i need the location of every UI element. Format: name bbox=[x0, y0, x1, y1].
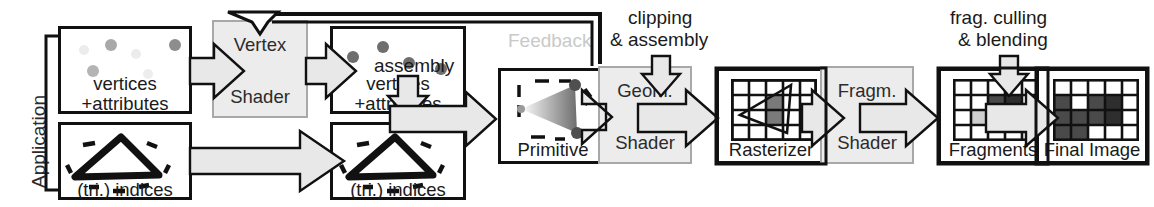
vertex-shader-line1: Vertex bbox=[214, 34, 306, 56]
rasterizer-grid bbox=[731, 79, 817, 141]
fragment-shader-line1: Fragm. bbox=[822, 80, 912, 102]
vertex-dot bbox=[105, 39, 117, 51]
vertex-shader-line2: Shader bbox=[214, 86, 306, 108]
vertices-attributes-in-box: vertices +attributes bbox=[58, 26, 192, 114]
application-label: Application bbox=[28, 95, 50, 188]
tri-indices-label: (tri.) indices bbox=[333, 179, 463, 201]
vertex-dot bbox=[377, 41, 389, 53]
vertex-dot bbox=[131, 49, 141, 59]
rasterizer-box: Rasterizer bbox=[716, 68, 826, 164]
tri-indices-in-box: (tri.) indices bbox=[58, 122, 192, 200]
pipeline-diagram: Application vertices +attributes Vertex … bbox=[0, 0, 1154, 207]
geometry-shader-line1: Geom. bbox=[600, 80, 690, 102]
attributes-label: +attributes bbox=[333, 93, 463, 115]
geometry-shader-box[interactable]: Geom. Shader bbox=[598, 66, 692, 164]
attributes-label: +attributes bbox=[61, 93, 189, 115]
culling-label-line2: & blending bbox=[958, 30, 1048, 50]
fragment-shader-line2: Shader bbox=[822, 132, 912, 154]
arrow-tri-indices bbox=[190, 131, 344, 191]
primitive-box: Primitive bbox=[498, 68, 608, 164]
vertex-dot bbox=[79, 45, 89, 55]
tri-indices-label: (tri.) indices bbox=[61, 179, 189, 201]
final-image-grid bbox=[1053, 79, 1139, 141]
vertex-dot bbox=[169, 39, 181, 51]
culling-label-line1: frag. culling bbox=[950, 8, 1047, 28]
final-image-label: Final Image bbox=[1039, 139, 1145, 161]
clipping-label-line1: clipping bbox=[628, 8, 692, 28]
assembly-label: assembly bbox=[374, 56, 454, 76]
rasterizer-label: Rasterizer bbox=[719, 139, 823, 161]
clipping-label-line2: & assembly bbox=[610, 30, 708, 50]
primitive-label: Primitive bbox=[501, 139, 605, 161]
fragment-shader-box[interactable]: Fragm. Shader bbox=[820, 66, 914, 164]
vertices-label: vertices bbox=[61, 73, 189, 95]
fragments-label: Fragments bbox=[941, 139, 1045, 161]
tri-indices-out-box: (tri.) indices bbox=[330, 122, 466, 200]
vertex-dot bbox=[347, 51, 359, 63]
final-image-box: Final Image bbox=[1036, 68, 1148, 164]
fragments-box: Fragments bbox=[938, 68, 1048, 164]
fragments-grid bbox=[953, 79, 1039, 141]
vertex-shader-box[interactable]: Vertex Shader bbox=[212, 20, 308, 118]
vertices-label: vertices bbox=[333, 73, 463, 95]
geometry-shader-line2: Shader bbox=[600, 132, 690, 154]
feedback-label: Feedback bbox=[508, 30, 591, 52]
